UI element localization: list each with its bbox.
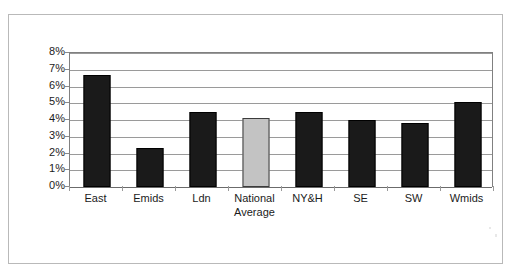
bar-slot xyxy=(282,53,335,187)
y-tick-label: 5% xyxy=(31,96,65,107)
x-axis: EastEmidsLdnNationalAverageNY&HSESWWmids xyxy=(69,191,493,239)
bar-slot xyxy=(229,53,282,187)
y-tick-label: 0% xyxy=(31,180,65,191)
bar-ny-h[interactable] xyxy=(295,112,322,187)
x-tick-label-line: SE xyxy=(353,192,368,204)
y-tick-label: 6% xyxy=(31,80,65,91)
x-tick-label: Emids xyxy=(122,191,175,205)
x-tick-mark xyxy=(334,186,335,191)
x-tick-label: NY&H xyxy=(281,191,334,205)
bar-se[interactable] xyxy=(348,120,375,187)
scan-speckle xyxy=(489,227,491,229)
plot-area xyxy=(69,52,493,187)
x-tick-label-line: SW xyxy=(405,192,423,204)
x-tick-label: NationalAverage xyxy=(228,191,281,219)
x-tick-label-line: NY&H xyxy=(292,192,323,204)
x-tick-mark xyxy=(440,186,441,191)
x-tick-label-line: East xyxy=(84,192,106,204)
x-tick-mark xyxy=(175,186,176,191)
bar-national-average[interactable] xyxy=(242,118,269,187)
y-tick-label: 4% xyxy=(31,113,65,124)
bar-slot xyxy=(123,53,176,187)
x-tick-mark xyxy=(387,186,388,191)
x-tick-mark xyxy=(69,186,70,191)
bar-slot xyxy=(176,53,229,187)
x-tick-label: SW xyxy=(387,191,440,205)
y-axis: 8%7%6%5%4%3%2%1%0% xyxy=(27,52,65,187)
x-tick-label-line: Ldn xyxy=(192,192,210,204)
y-tick-label: 1% xyxy=(31,163,65,174)
bar-slot xyxy=(70,53,123,187)
scan-speckle xyxy=(495,234,497,237)
bar-ldn[interactable] xyxy=(189,112,216,187)
x-tick-mark xyxy=(493,186,494,191)
y-tick-label: 8% xyxy=(31,46,65,57)
y-tick-label: 3% xyxy=(31,130,65,141)
bar-slot xyxy=(335,53,388,187)
x-tick-mark xyxy=(122,186,123,191)
y-tick-label: 2% xyxy=(31,147,65,158)
x-tick-label-line: Wmids xyxy=(450,192,484,204)
x-tick-label-line: National xyxy=(234,192,274,204)
bar-east[interactable] xyxy=(83,75,110,187)
x-tick-label: Ldn xyxy=(175,191,228,205)
bar-sw[interactable] xyxy=(401,123,428,187)
x-tick-label: East xyxy=(69,191,122,205)
x-tick-label-line: Average xyxy=(228,205,281,219)
bar-slot xyxy=(441,53,494,187)
bar-emids[interactable] xyxy=(136,148,163,187)
x-tick-label: SE xyxy=(334,191,387,205)
chart-frame: 8%7%6%5%4%3%2%1%0% EastEmidsLdnNationalA… xyxy=(8,14,503,264)
x-tick-mark xyxy=(281,186,282,191)
x-tick-label: Wmids xyxy=(440,191,493,205)
bar-wmids[interactable] xyxy=(454,102,481,187)
x-tick-mark xyxy=(228,186,229,191)
y-tick-label: 7% xyxy=(31,63,65,74)
x-tick-label-line: Emids xyxy=(133,192,164,204)
bar-slot xyxy=(388,53,441,187)
